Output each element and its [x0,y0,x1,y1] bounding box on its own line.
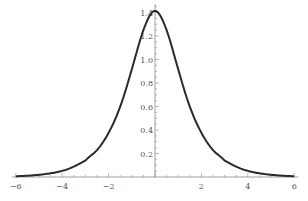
x-tick-label: −6 [10,182,22,191]
x-tick-label: 2 [199,182,204,191]
tick-labels: −6−4−22460.20.40.60.81.01.21.4 [10,9,297,192]
y-tick-label: 0.2 [140,150,153,159]
x-tick-label: 6 [292,182,297,191]
x-tick-label: −2 [103,182,115,191]
y-tick-label: 1.0 [140,56,153,65]
line-chart: −6−4−22460.20.40.60.81.01.21.4 [0,0,308,201]
x-tick-label: 4 [245,182,250,191]
y-tick-label: 0.6 [140,103,153,112]
y-tick-label: 0.8 [140,79,153,88]
x-tick-label: −4 [56,182,68,191]
y-tick-label: 0.4 [140,126,153,135]
